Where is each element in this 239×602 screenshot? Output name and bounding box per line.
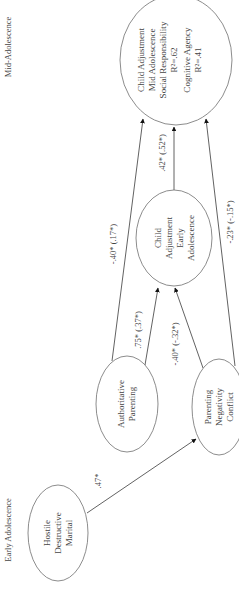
edge-authoritative-to-early (145, 288, 158, 365)
node-hostile-line-2: Destructive (53, 512, 63, 553)
node-parenting-negativity-conflict: Parenting Negativity Conflict (192, 359, 239, 455)
node-early-line-2: Adjustment (164, 217, 174, 259)
node-auth-line-2: Parenting (127, 386, 137, 421)
phase-label-mid: Mid-Adolescence (3, 17, 13, 78)
edge-label-hostile-to-negativity: .47* (93, 474, 103, 489)
node-mid-line-2: Mid Adolescence (147, 29, 157, 92)
node-neg-line-3: Conflict (225, 392, 235, 422)
node-early-line-4: Adolescence (186, 215, 196, 261)
node-neg-line-2: Negativity (214, 388, 224, 426)
edge-label-authoritative-to-mid: -.40* (.17*) (108, 224, 118, 265)
node-mid-line-1: Child Adjustment (136, 28, 146, 92)
edge-label-early-to-mid: .42* (.52*) (157, 134, 167, 172)
edge-label-negativity-to-early: -.40* (-.32*) (170, 322, 180, 365)
node-hostile-line-3: Marital (64, 519, 74, 546)
path-diagram: Mid-Adolescence Early Adolescence .47* .… (0, 0, 239, 602)
edge-label-authoritative-to-early: .75* (.37*) (133, 311, 143, 349)
node-mid-line-3: Social Responsibility (158, 21, 168, 98)
edge-label-negativity-to-mid: -.23* (-.15*) (225, 200, 235, 243)
node-mid-line-6: R²=.41 (193, 47, 203, 72)
node-mid-line-5: Cognitive Agency (182, 27, 192, 93)
node-neg-line-1: Parenting (203, 389, 213, 424)
phase-label-early: Early Adolescence (3, 498, 13, 562)
node-early-line-1: Child (153, 228, 163, 249)
node-early-line-3: Early (175, 228, 185, 248)
edge-hostile-to-negativity (87, 439, 196, 513)
node-mid-adjustment: Child Adjustment Mid Adolescence Social … (120, 0, 232, 125)
node-auth-line-1: Authoritative (116, 380, 126, 428)
node-hostile-line-1: Hostile (42, 520, 52, 546)
node-authoritative-parenting: Authoritative Parenting (96, 356, 158, 452)
node-mid-line-4: R²=.62 (169, 47, 179, 72)
node-early-adjustment: Child Adjustment Early Adolescence (136, 190, 212, 286)
node-hostile-destructive-marital: Hostile Destructive Marital (28, 485, 88, 581)
